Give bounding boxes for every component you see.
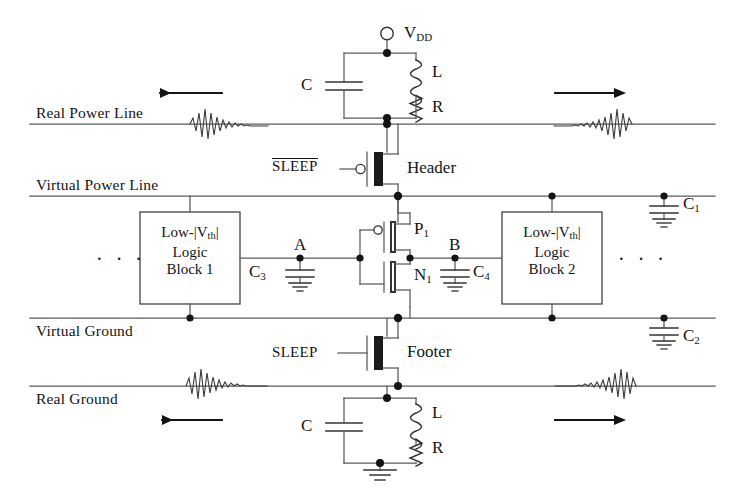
virtual-ground-line-label: Virtual Ground (36, 322, 133, 340)
junction-node-a (296, 254, 303, 261)
logic-block-1-line3: Block 1 (140, 261, 240, 278)
junction-virtual-power-header (394, 192, 402, 200)
bottom-capacitor-label: C (301, 416, 312, 436)
real-power-line-label: Real Power Line (36, 104, 143, 122)
ellipsis-right: · · · (618, 248, 668, 271)
virtual-power-line-label: Virtual Power Line (36, 176, 158, 194)
top-inductor-label: L (432, 62, 442, 82)
ellipsis-left: · · · (96, 248, 146, 271)
c3-label: C3 (249, 262, 266, 282)
junction-virtual-ground-lb2 (548, 314, 555, 321)
logic-block-2-text: Low-|Vth| Logic Block 2 (502, 224, 602, 278)
noise-bottom-right-wave (555, 369, 636, 399)
footer-label: Footer (407, 342, 451, 362)
n1-channel-bar (391, 262, 395, 292)
header-label: Header (407, 158, 456, 178)
junction-real-power-header (383, 120, 391, 128)
junction-virtual-power-c1 (660, 192, 667, 199)
vdd-label: VDD (404, 23, 432, 43)
logic-block-2-line2: Logic (502, 244, 602, 261)
logic-block-1-text: Low-|Vth| Logic Block 1 (140, 224, 240, 278)
bottom-resistor-label: R (432, 438, 443, 458)
junction-bottom-tank-bottom (376, 459, 384, 467)
logic-block-1-line1: Low-|Vth| (140, 224, 240, 244)
footer-channel-bar (374, 336, 383, 370)
c2-label: C2 (683, 326, 700, 346)
junction-virtual-ground-lb1 (186, 314, 193, 321)
n1-label: N1 (414, 265, 432, 285)
real-ground-line-label: Real Ground (36, 390, 118, 408)
junction-bottom-tank-top (383, 394, 391, 402)
node-b-label: B (449, 235, 460, 255)
junction-virtual-power-lb2 (548, 192, 555, 199)
top-capacitor-label: C (301, 75, 312, 95)
logic-block-1-line2: Logic (140, 244, 240, 261)
c4-label: C4 (473, 262, 490, 282)
logic-block-2-line3: Block 2 (502, 261, 602, 278)
header-gate-bubble (356, 164, 365, 173)
header-sleep-signal-label: SLEEP (272, 158, 318, 175)
junction-inverter-mid (406, 254, 413, 261)
bottom-inductor-label: L (432, 403, 442, 423)
junction-real-ground-footer (394, 382, 402, 390)
p1-gate-bubble (374, 226, 382, 234)
circuit-diagram (0, 0, 745, 493)
junction-node-b (451, 254, 458, 261)
junction-virtual-ground-c2 (660, 314, 667, 321)
junction-gate-bus (356, 254, 363, 261)
node-a-label: A (294, 235, 306, 255)
p1-label: P1 (414, 219, 429, 239)
header-channel-bar (374, 152, 383, 186)
vdd-terminal-circle (381, 27, 393, 39)
junction-virtual-ground-footer (394, 314, 402, 322)
p1-channel-bar (391, 222, 395, 252)
top-resistor-label: R (432, 97, 443, 117)
noise-bottom-left-wave (186, 369, 267, 399)
junction-vdd-tank (383, 49, 391, 57)
logic-block-2-line1: Low-|Vth| (502, 224, 602, 244)
footer-sleep-signal-label: SLEEP (272, 344, 318, 361)
c1-label: C1 (683, 194, 700, 214)
